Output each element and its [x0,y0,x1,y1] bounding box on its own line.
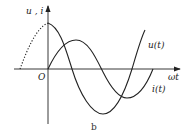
x-axis-label: ωt [168,72,179,82]
waveform-svg: u , i O ωt u(t) i(t) b [0,0,191,137]
origin-label: O [38,72,46,82]
u-curve-dotted-extension [20,23,48,69]
u-curve-label: u(t) [148,40,165,50]
u-curve [48,23,145,114]
figure-caption: b [91,122,97,132]
waveform-diagram: u , i O ωt u(t) i(t) b [0,0,191,137]
y-axis-label: u , i [26,6,43,16]
i-curve-label: i(t) [152,84,166,94]
